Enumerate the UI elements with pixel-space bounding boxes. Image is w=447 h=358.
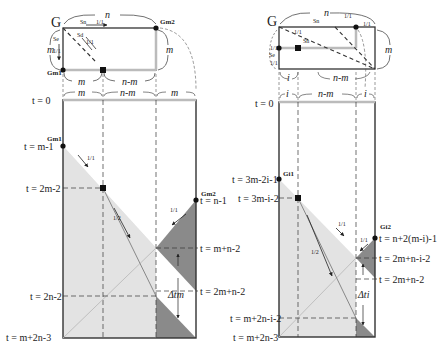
node-gm2-time <box>193 197 198 202</box>
right-col-dim-i: i <box>286 88 289 99</box>
right-grid-diagram: G n m i n-m Sn 1/1 1/1 Se 1/1 1/1 Sn 1/1 <box>267 7 392 88</box>
right-node-a-label: Gi1 <box>283 170 294 178</box>
right-t-end: t = m+2n-3 <box>233 332 278 343</box>
left-delta: Δtm <box>167 289 184 300</box>
node-gm1-time <box>60 143 65 148</box>
right-t-mid: t = 2m+n-i-2 <box>379 253 430 264</box>
right-t0: t = 0 <box>255 98 273 109</box>
right-timeline-diagram: i n-m i t = 0 Gi1 t = 3m-2i-1 t = 3m-i-2… <box>230 72 437 343</box>
right-rate-diag: 1/1 <box>294 29 302 35</box>
left-bottom-dim-nm: n-m <box>122 76 138 87</box>
left-t-2mn2: t = 2m+n-2 <box>200 286 245 297</box>
left-bottom-dim-m: m <box>78 76 85 87</box>
right-right-dim: m <box>385 44 392 55</box>
left-top-dim: n <box>105 9 110 20</box>
right-col-dim-nm: n-m <box>318 88 334 99</box>
right-label-sn: Sn <box>313 18 319 24</box>
left-t-2n2: t = 2n-2 <box>30 291 62 302</box>
right-rate-top-b: 1/1 <box>363 21 371 27</box>
node-gi2-time <box>372 235 377 240</box>
left-rate-a: 1/1 <box>87 155 95 161</box>
right-delta: Δti <box>357 289 370 300</box>
right-dark-lower <box>356 318 375 337</box>
left-timeline-diagram: m n-m m t = 0 Gm1 t = m-1 t = 2m-2 Gm2 t… <box>6 74 245 343</box>
col-dim-m: m <box>78 87 85 98</box>
right-bottom-dim-i: i <box>287 72 290 83</box>
figure-canvas: G n m m m n-m Sn 1/1 Se 1/1 Sd 1/1 Gm1 G… <box>0 0 447 358</box>
brace-top <box>64 15 156 24</box>
right-rate-b: 1/1 <box>360 237 368 243</box>
right-rate-c: 1/2 <box>311 249 319 255</box>
right-light-region <box>279 179 356 337</box>
left-t-end: t = m+2n-3 <box>6 332 51 343</box>
right-label-se: Se <box>269 52 275 58</box>
node-gm2-label: Gm2 <box>160 18 175 26</box>
left-t-sq: t = 2m-2 <box>26 183 61 194</box>
rate-top: 1/1 <box>96 19 104 25</box>
right-col-dim-i2: i <box>364 88 367 99</box>
left-t-mn2: t = m+n-2 <box>200 243 240 254</box>
left-projection-curve <box>160 28 196 90</box>
right-rate-left-a: 1/1 <box>270 45 278 51</box>
right-rate-top-a: 1/1 <box>344 13 352 19</box>
left-grid-label-g: G <box>51 15 61 30</box>
right-rate-a: 1/1 <box>338 221 346 227</box>
left-t0: t = 0 <box>32 95 50 106</box>
right-t-low: t = m+2n-i-2 <box>230 313 281 324</box>
right-t-sq: t = 3m-i-2 <box>238 193 279 204</box>
right-t-b: t = n+2(m-i)-1 <box>379 233 437 245</box>
rate-diag: 1/1 <box>86 39 94 45</box>
meeting-square <box>100 67 106 73</box>
label-sn: Sn <box>80 19 86 25</box>
left-rate-b: 1/1 <box>170 207 178 213</box>
col-dim-nm: n-m <box>120 87 136 98</box>
right-top-dim: n <box>324 7 329 18</box>
col-dim-m2: m <box>171 87 178 98</box>
label-se: Se <box>53 36 59 42</box>
label-sd: Sd <box>77 32 83 38</box>
rate-left: 1/1 <box>53 48 61 54</box>
right-t-2mn2: t = 2m+n-2 <box>379 274 424 285</box>
left-t-b: t = n-1 <box>200 195 227 206</box>
right-rate-left-b: 1/1 <box>270 60 278 66</box>
left-t-a: t = m-1 <box>24 141 54 152</box>
left-rate-c: 1/2 <box>113 215 121 221</box>
right-node-b-label: Gi2 <box>380 223 391 231</box>
left-grid-diagram: G n m m m n-m Sn 1/1 Se 1/1 Sd 1/1 Gm1 G… <box>47 9 196 90</box>
left-right-dim: m <box>166 44 173 55</box>
right-t-a: t = 3m-2i-1 <box>232 174 278 185</box>
node-gm1-label: Gm1 <box>47 69 62 77</box>
right-label-sd: Sn <box>303 38 309 44</box>
right-grid-label-g: G <box>267 14 277 29</box>
right-bottom-dim-nm: n-m <box>333 72 349 83</box>
node-gm2 <box>153 25 158 30</box>
